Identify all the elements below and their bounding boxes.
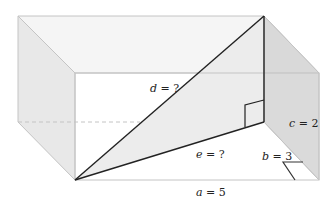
label-e: e = ? [196, 148, 225, 161]
label-c: c = 2 [289, 117, 318, 130]
label-a: a = 5 [196, 186, 226, 199]
label-d: d = ? [150, 82, 179, 95]
right-angle-marker-b [283, 162, 303, 180]
prism-diagram: d = ? e = ? a = 5 b = 3 c = 2 [0, 0, 333, 203]
label-b: b = 3 [262, 150, 292, 163]
